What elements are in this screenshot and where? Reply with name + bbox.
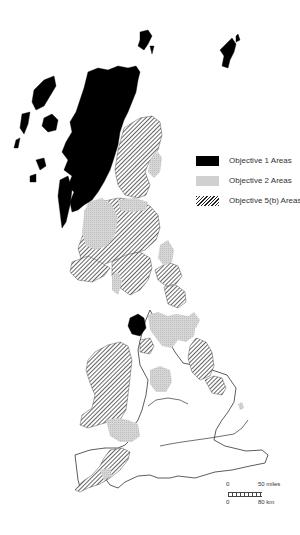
scale-miles-start: 0 [226, 481, 229, 487]
map-legend: Objective 1 Areas Objective 2 Areas Obje… [196, 152, 300, 212]
objective-1-swatch [196, 156, 219, 166]
objective-5b-swatch [196, 196, 219, 206]
legend-item-objective-1: Objective 1 Areas [196, 152, 300, 169]
scale-bar: 0 50 miles 0 80 km [226, 481, 300, 511]
legend-label: Objective 1 Areas [229, 156, 292, 165]
great-britain-map [0, 0, 300, 535]
scale-miles-end: 50 miles [258, 481, 280, 487]
legend-label: Objective 2 Areas [229, 176, 292, 185]
legend-item-objective-2: Objective 2 Areas [196, 172, 300, 189]
scale-bar-ruler [228, 492, 262, 497]
scale-km-start: 0 [226, 499, 229, 505]
legend-label: Objective 5(b) Areas [229, 196, 300, 205]
legend-item-objective-5b: Objective 5(b) Areas [196, 192, 300, 209]
scale-km-end: 80 km [258, 499, 274, 505]
objective-2-swatch [196, 176, 219, 186]
